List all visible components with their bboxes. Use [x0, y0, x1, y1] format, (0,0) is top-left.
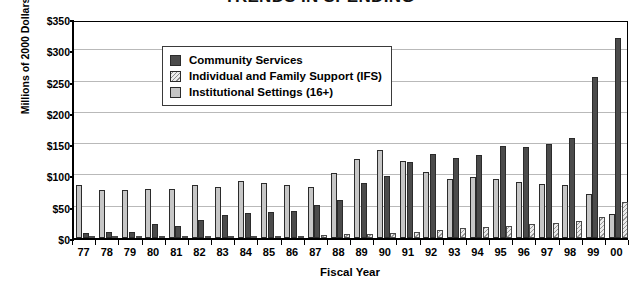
bar-institutional	[400, 161, 406, 238]
legend-item: Institutional Settings (16+)	[170, 84, 382, 100]
bar-ifs	[136, 236, 142, 238]
x-tick-label: 84	[240, 246, 252, 258]
y-tick-label: $300	[4, 46, 70, 58]
bar-institutional	[76, 185, 82, 238]
bar-ifs	[159, 236, 165, 238]
bar-group	[491, 22, 514, 238]
bar-community	[314, 205, 320, 238]
bar-ifs	[275, 236, 281, 238]
bar-group	[445, 22, 468, 238]
bar-ifs	[437, 230, 443, 238]
bar-group	[514, 22, 537, 238]
bar-community	[430, 154, 436, 238]
bar-group	[398, 22, 421, 238]
bar-ifs	[553, 223, 559, 238]
x-tick-mark	[396, 240, 397, 245]
bar-group	[422, 22, 445, 238]
bar-group	[74, 22, 97, 238]
chart-legend: Community ServicesIndividual and Family …	[162, 46, 392, 106]
x-tick-label: 91	[402, 246, 414, 258]
bar-group	[468, 22, 491, 238]
bar-ifs	[89, 236, 95, 238]
y-tick-label: $0	[4, 234, 70, 246]
y-tick-label: $150	[4, 140, 70, 152]
legend-swatch-community-icon	[170, 55, 181, 66]
x-tick-mark	[489, 240, 490, 245]
x-tick-label: 89	[355, 246, 367, 258]
bar-ifs	[414, 232, 420, 238]
x-tick-mark	[466, 240, 467, 245]
bar-community	[407, 162, 413, 238]
bar-ifs	[112, 236, 118, 238]
plot-area: Community ServicesIndividual and Family …	[72, 21, 628, 240]
bar-institutional	[354, 159, 360, 238]
bar-community	[523, 147, 529, 238]
bar-group	[120, 22, 143, 238]
bar-ifs	[182, 236, 188, 238]
x-tick-mark	[535, 240, 536, 245]
bar-institutional	[539, 184, 545, 238]
x-tick-mark	[95, 240, 96, 245]
bar-community	[175, 226, 181, 239]
bar-community	[361, 183, 367, 238]
x-tick-mark	[582, 240, 583, 245]
x-tick-mark	[628, 240, 629, 245]
bar-ifs	[344, 234, 350, 238]
bar-institutional	[192, 185, 198, 238]
x-tick-mark	[211, 240, 212, 245]
bar-community	[569, 138, 575, 238]
x-tick-label: 88	[332, 246, 344, 258]
bar-ifs	[506, 226, 512, 239]
x-tick-mark	[512, 240, 513, 245]
x-tick-label: 80	[147, 246, 159, 258]
x-tick-label: 00	[610, 246, 622, 258]
x-tick-mark	[118, 240, 119, 245]
bar-institutional	[169, 189, 175, 238]
x-tick-mark	[327, 240, 328, 245]
x-tick-label: 95	[494, 246, 506, 258]
x-tick-mark	[188, 240, 189, 245]
bar-community	[245, 213, 251, 238]
x-tick-label: 83	[216, 246, 228, 258]
x-tick-label: 82	[193, 246, 205, 258]
x-tick-label: 99	[587, 246, 599, 258]
bar-ifs	[576, 221, 582, 238]
bar-institutional	[609, 214, 615, 238]
bar-community	[592, 77, 598, 238]
y-tick-label: $50	[4, 203, 70, 215]
x-tick-label: 85	[263, 246, 275, 258]
bar-community	[337, 200, 343, 238]
bar-group	[584, 22, 607, 238]
bar-community	[268, 212, 274, 238]
x-tick-label: 79	[124, 246, 136, 258]
x-tick-mark	[350, 240, 351, 245]
bar-community	[198, 220, 204, 238]
bar-group	[97, 22, 120, 238]
bar-institutional	[215, 187, 221, 238]
bar-institutional	[284, 185, 290, 238]
bar-institutional	[493, 179, 499, 238]
x-tick-label: 90	[379, 246, 391, 258]
x-tick-label: 96	[518, 246, 530, 258]
bar-ifs	[599, 217, 605, 238]
x-tick-label: 97	[541, 246, 553, 258]
bar-community	[453, 158, 459, 238]
x-tick-mark	[234, 240, 235, 245]
bar-group	[561, 22, 584, 238]
x-tick-label: 81	[170, 246, 182, 258]
bar-community	[546, 144, 552, 238]
bar-ifs	[298, 236, 304, 239]
x-tick-label: 92	[425, 246, 437, 258]
bar-ifs	[321, 235, 327, 238]
x-tick-label: 78	[101, 246, 113, 258]
bar-institutional	[308, 187, 314, 238]
bar-ifs	[228, 236, 234, 238]
bar-institutional	[516, 182, 522, 238]
legend-item: Community Services	[170, 52, 382, 68]
bar-ifs	[205, 236, 211, 238]
bar-institutional	[423, 172, 429, 238]
spending-bar-chart: TRENDS IN SPENDING Millions of 2000 Doll…	[0, 0, 639, 294]
bar-group	[537, 22, 560, 238]
bar-institutional	[562, 185, 568, 238]
bar-institutional	[122, 190, 128, 238]
